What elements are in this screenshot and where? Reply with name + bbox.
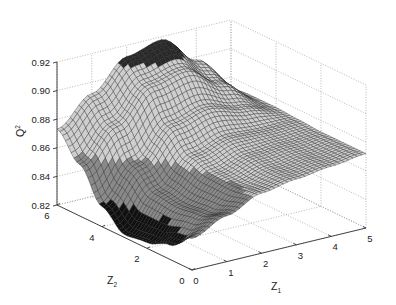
y-tick-label: 4 [89, 232, 94, 243]
x-tick-label: 5 [367, 233, 372, 244]
z-tick [53, 148, 57, 149]
x-axis-label: Z1 [271, 280, 281, 294]
z-tick [53, 62, 57, 63]
x-tick [293, 243, 296, 245]
y-tick-label: 2 [134, 253, 139, 264]
x-tick [328, 235, 331, 237]
surface-mesh [57, 40, 366, 246]
x-tick-label: 1 [228, 267, 233, 278]
z-tick [53, 205, 57, 206]
side-wall-grid-line [231, 20, 366, 85]
z-tick-label: 0.84 [32, 171, 51, 182]
x-tick [259, 252, 262, 254]
x-tick-label: 2 [263, 258, 268, 269]
y-axis-label: Z2 [107, 274, 117, 288]
x-axis-line [192, 228, 366, 270]
z-tick-label: 0.90 [32, 85, 51, 96]
x-tick [224, 260, 227, 262]
z-tick-label: 0.86 [32, 142, 51, 153]
z-tick-label: 0.82 [32, 200, 51, 211]
z-tick [53, 91, 57, 92]
surface-plot: 01234502460.820.840.860.880.900.92 Q2 Z2… [0, 0, 396, 305]
y-tick-label: 6 [44, 210, 49, 221]
z-tick-label: 0.92 [32, 57, 51, 68]
z-axis-label: Q2 [14, 125, 26, 137]
z-tick [53, 176, 57, 177]
x-tick-label: 0 [193, 275, 198, 286]
z-tick-label: 0.88 [32, 114, 51, 125]
x-tick-label: 4 [333, 241, 338, 252]
y-tick-label: 0 [179, 275, 184, 286]
x-tick-label: 3 [298, 250, 303, 261]
x-tick [363, 227, 366, 229]
z-tick [53, 119, 57, 120]
